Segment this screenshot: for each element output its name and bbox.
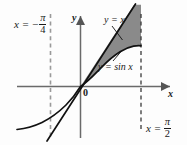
right-boundary-label: x = π2 xyxy=(146,118,171,140)
left-boundary-fraction: π4 xyxy=(39,13,46,35)
origin-label: 0 xyxy=(83,88,88,98)
right-boundary-prefix: x = xyxy=(146,122,164,134)
curve-label-y-equals-sin-x: y = sin x xyxy=(98,62,133,72)
x-axis-label: x xyxy=(168,89,173,99)
left-boundary-prefix: x = − xyxy=(14,18,39,30)
curve-label-y-equals-x: y = x xyxy=(104,15,125,25)
left-boundary-label: x = −π4 xyxy=(14,14,46,36)
y-axis-label: y xyxy=(72,13,76,23)
figure-container: x = −π4 x = π2 y = x y = sin x y x 0 xyxy=(0,0,187,145)
curve-y-equals-sin-x xyxy=(17,46,141,130)
right-boundary-fraction: π2 xyxy=(164,117,171,139)
right-boundary-denominator: 2 xyxy=(164,129,171,140)
left-boundary-denominator: 4 xyxy=(39,25,46,36)
